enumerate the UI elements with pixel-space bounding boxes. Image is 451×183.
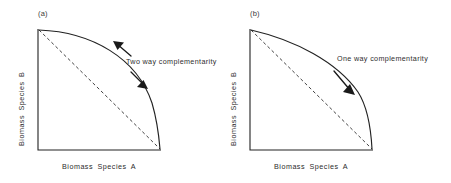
panel-a-y-axis-label: Biomass Species B (17, 72, 26, 146)
panel-b-single-arrow-icon (334, 71, 355, 95)
panel-a-label: (a) (38, 9, 48, 18)
panel-b-y-axis-label: Biomass Species B (229, 72, 238, 146)
panel-a-plot (0, 0, 225, 183)
panel-a-x-axis-label: Biomass Species A (62, 162, 136, 171)
complementarity-figure: (a) Two way complementarity Biomass Spec… (0, 0, 451, 183)
panel-b-annotation: One way complementarity (337, 54, 428, 63)
panel-b-label: (b) (250, 9, 260, 18)
panel-b: (b) One way complementarity Biomass Spec… (225, 0, 450, 183)
panel-b-dashed-diagonal (251, 30, 372, 149)
panel-a-annotation: Two way complementarity (126, 57, 217, 66)
panel-a-lower-arrow-icon (131, 72, 148, 89)
panel-b-x-axis-label: Biomass Species A (274, 162, 348, 171)
panel-a-dashed-diagonal (39, 30, 160, 149)
panel-b-plot (225, 0, 450, 183)
panel-a: (a) Two way complementarity Biomass Spec… (0, 0, 225, 183)
